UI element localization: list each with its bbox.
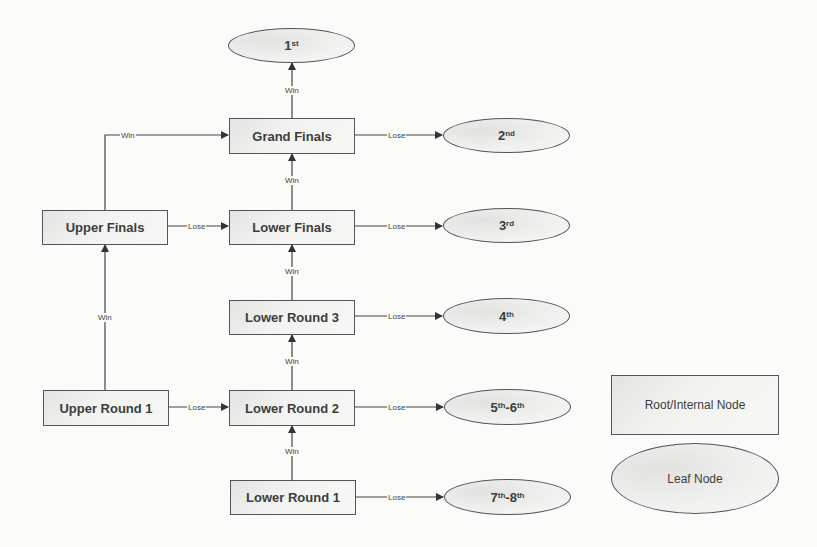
edge-label-lose: Lose bbox=[387, 493, 406, 502]
place-suffix: th bbox=[498, 401, 506, 410]
node-lower-round-2: Lower Round 2 bbox=[229, 390, 355, 426]
edge-label-lose: Lose bbox=[387, 403, 406, 412]
place-number: 1 bbox=[284, 38, 291, 53]
edge-label-win: Win bbox=[284, 357, 300, 366]
edge-label-win: Win bbox=[284, 267, 300, 276]
node-label: Lower Round 2 bbox=[245, 401, 339, 416]
edge-label-lose: Lose bbox=[387, 131, 406, 140]
edge-label-win: Win bbox=[97, 313, 113, 322]
node-lower-round-3: Lower Round 3 bbox=[229, 300, 355, 335]
legend-internal-node: Root/Internal Node bbox=[611, 375, 779, 435]
edge-label-lose: Lose bbox=[387, 312, 406, 321]
place-suffix: th bbox=[517, 401, 525, 410]
place-suffix: rd bbox=[506, 219, 514, 228]
node-lower-round-1: Lower Round 1 bbox=[230, 480, 356, 515]
place-suffix: th bbox=[517, 491, 525, 500]
place-number: 5 bbox=[491, 400, 498, 415]
edge-label-win: Win bbox=[284, 176, 300, 185]
edge-label-lose: Lose bbox=[187, 403, 206, 412]
node-label: Upper Round 1 bbox=[59, 401, 152, 416]
node-grand-finals: Grand Finals bbox=[229, 118, 355, 154]
place-number: 4 bbox=[499, 309, 506, 324]
edge-label-win: Win bbox=[120, 131, 136, 140]
node-label: Lower Finals bbox=[252, 220, 331, 235]
place-number: 7 bbox=[491, 490, 498, 505]
node-label: Grand Finals bbox=[252, 129, 331, 144]
leaf-7th-8th: 7th-8th bbox=[444, 479, 571, 515]
node-label: Lower Round 1 bbox=[246, 490, 340, 505]
edge-label-lose: Lose bbox=[387, 222, 406, 231]
leaf-3rd: 3rd bbox=[443, 208, 570, 243]
leaf-2nd: 2nd bbox=[443, 118, 570, 153]
edge-label-win: Win bbox=[284, 86, 300, 95]
place-number: 3 bbox=[499, 218, 506, 233]
leaf-5th-6th: 5th-6th bbox=[444, 389, 571, 425]
node-upper-finals: Upper Finals bbox=[42, 210, 168, 245]
place-suffix: th bbox=[506, 310, 514, 319]
place-suffix: st bbox=[292, 39, 299, 48]
node-label: Lower Round 3 bbox=[245, 310, 339, 325]
edge-label-lose: Lose bbox=[187, 222, 206, 231]
leaf-1st: 1st bbox=[228, 28, 355, 63]
place-suffix: th bbox=[498, 491, 506, 500]
node-label: Upper Finals bbox=[66, 220, 145, 235]
node-lower-finals: Lower Finals bbox=[229, 210, 355, 245]
legend-leaf-node: Leaf Node bbox=[611, 443, 779, 514]
edge-upperfinals-to-grand bbox=[105, 135, 228, 210]
place-suffix: nd bbox=[505, 129, 515, 138]
leaf-4th: 4th bbox=[443, 298, 570, 334]
place-number: 2 bbox=[498, 128, 505, 143]
edge-label-win: Win bbox=[284, 447, 300, 456]
legend-label: Root/Internal Node bbox=[645, 398, 746, 412]
legend-label: Leaf Node bbox=[667, 472, 722, 486]
node-upper-round-1: Upper Round 1 bbox=[43, 390, 169, 426]
place-number: 6 bbox=[510, 400, 517, 415]
place-number: 8 bbox=[510, 490, 517, 505]
